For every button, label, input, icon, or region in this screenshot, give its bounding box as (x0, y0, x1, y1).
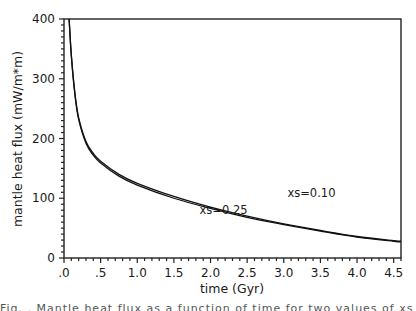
y-tick-label: 200 (32, 132, 55, 146)
y-axis: 0100200300400 (32, 12, 64, 265)
series-label: xs=0.25 (200, 203, 248, 217)
x-tick-label: 3.5 (311, 266, 330, 280)
figure-caption: Fig. . Mantle heat flux as a function of… (0, 302, 416, 311)
y-tick-label: 400 (32, 12, 55, 26)
y-axis-title: mantle heat flux (mW/m*m) (10, 51, 25, 227)
y-tick-label: 100 (32, 191, 55, 205)
x-tick-label: .0 (58, 266, 69, 280)
heat-flux-chart: 0100200300400 .0.51.01.52.02.53.03.54.04… (0, 0, 416, 311)
x-tick-label: 1.5 (164, 266, 183, 280)
series-label: xs=0.10 (287, 186, 335, 200)
y-tick-label: 0 (47, 251, 55, 265)
x-tick-label: 2.0 (201, 266, 220, 280)
x-tick-label: 4.5 (384, 266, 403, 280)
y-tick-label: 300 (32, 72, 55, 86)
x-tick-label: .5 (95, 266, 106, 280)
plot-border (64, 19, 401, 258)
x-tick-label: 3.0 (274, 266, 293, 280)
x-axis: .0.51.01.52.02.53.03.54.04.5 (58, 258, 403, 280)
x-tick-label: 4.0 (347, 266, 366, 280)
plot-frame (64, 19, 401, 258)
x-axis-title: time (Gyr) (200, 281, 264, 296)
x-tick-label: 1.0 (128, 266, 147, 280)
series-annotations: xs=0.10xs=0.25 (200, 186, 336, 217)
x-tick-label: 2.5 (238, 266, 257, 280)
